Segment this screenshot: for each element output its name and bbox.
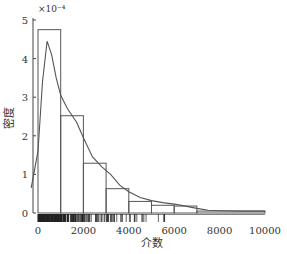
x-tick-label: 2000 bbox=[71, 225, 96, 236]
x-tick-label: 4000 bbox=[116, 225, 141, 236]
y-tick-label: 0 bbox=[22, 208, 28, 219]
y-axis-label: 密度 bbox=[2, 107, 16, 129]
histogram-bars bbox=[38, 30, 265, 213]
y-multiplier-label: ×10⁻⁴ bbox=[38, 4, 66, 14]
histogram-bar bbox=[174, 206, 197, 213]
y-tick-label: 3 bbox=[22, 92, 28, 103]
y-tick-label: 1 bbox=[22, 169, 28, 180]
x-tick-label: 8000 bbox=[207, 225, 232, 236]
histogram-bar bbox=[106, 189, 129, 213]
x-tick-label: 6000 bbox=[161, 225, 186, 236]
rug-plot bbox=[38, 214, 265, 222]
y-tick-label: 5 bbox=[22, 15, 28, 26]
histogram-bar bbox=[152, 205, 175, 213]
histogram-bar bbox=[38, 30, 61, 213]
x-tick-label: 0 bbox=[35, 225, 41, 236]
x-tick-label: 10000 bbox=[249, 225, 281, 236]
histogram-bar bbox=[129, 201, 152, 213]
histogram-chart: 0123450200040006000800010000 ×10⁻⁴ 密度 介数 bbox=[0, 0, 287, 254]
histogram-bar bbox=[83, 163, 106, 213]
kde-curve bbox=[31, 41, 265, 211]
x-axis-label: 介数 bbox=[141, 237, 163, 250]
y-tick-label: 4 bbox=[22, 54, 28, 65]
y-tick-label: 2 bbox=[22, 131, 28, 142]
